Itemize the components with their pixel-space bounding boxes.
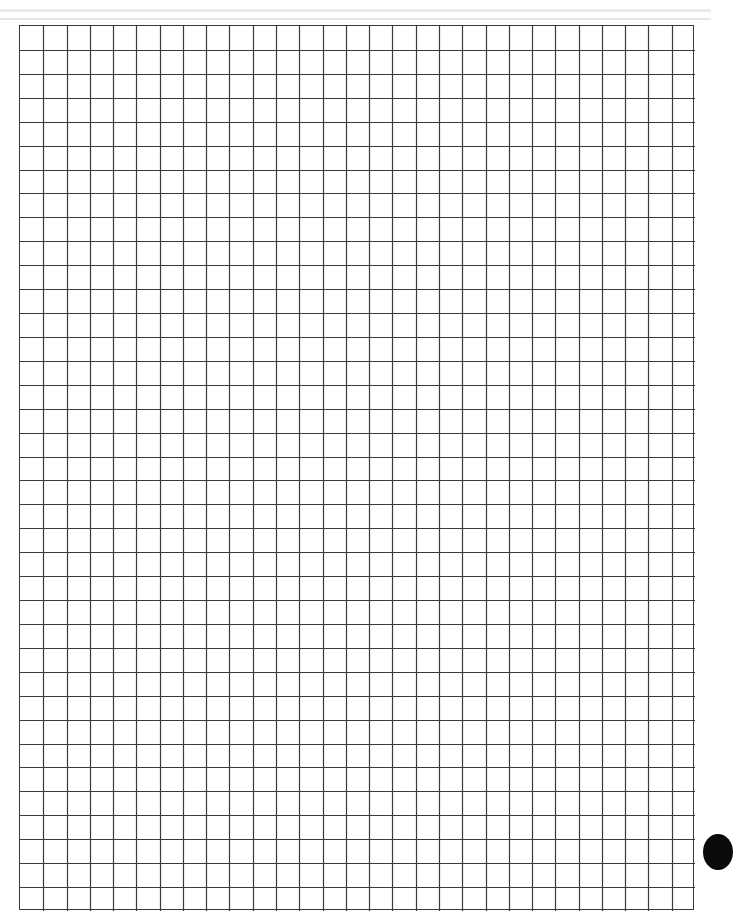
graph-paper-grid <box>19 25 694 910</box>
grid-lines <box>20 26 695 911</box>
header-rule-bottom <box>0 18 711 20</box>
header-rule-top <box>0 9 711 12</box>
binder-hole-edge-mark <box>703 834 733 870</box>
